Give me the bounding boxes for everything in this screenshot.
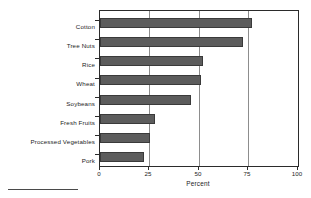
bar-soybeans [100,95,191,105]
x-axis-title: Percent [99,180,297,187]
bar-chart-figure: Cotton Tree Nuts Rice Wheat Soybeans Fre… [0,0,311,198]
category-label-rice: Rice [0,61,95,68]
plot-area [99,10,299,167]
category-label-cotton: Cotton [0,23,95,30]
category-label-wheat: Wheat [0,80,95,87]
x-axis-ticklabel-25: 25 [138,170,158,178]
bar-wheat [100,75,201,85]
x-axis-ticklabel-50: 50 [188,170,208,178]
footnote-separator-rule [8,189,78,190]
category-label-processed-vegetables: Processed Vegetables [0,138,95,145]
x-axis-ticklabel-75: 75 [237,170,257,178]
gridline-50 [199,11,200,166]
category-label-pork: Pork [0,157,95,164]
plot-inner [100,11,298,166]
bar-fresh-fruits [100,114,155,124]
bar-processed-vegetables [100,133,150,143]
bar-cotton [100,18,252,28]
category-axis-labels: Cotton Tree Nuts Rice Wheat Soybeans Fre… [0,10,95,165]
x-axis-ticklabel-100: 100 [287,170,307,178]
gridline-75 [248,11,249,166]
bar-pork [100,152,144,162]
x-axis-ticklabel-0: 0 [89,170,109,178]
category-label-soybeans: Soybeans [0,100,95,107]
bar-tree-nuts [100,37,243,47]
bar-rice [100,56,203,66]
category-label-tree-nuts: Tree Nuts [0,42,95,49]
category-label-fresh-fruits: Fresh Fruits [0,119,95,126]
